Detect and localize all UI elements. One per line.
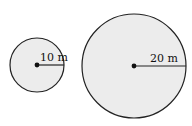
diagram-canvas: 10 m 20 m bbox=[0, 0, 192, 126]
large-circle-group: 20 m bbox=[82, 14, 186, 118]
small-center-dot bbox=[35, 63, 40, 68]
small-radius-label: 10 m bbox=[40, 51, 68, 64]
small-circle-group: 10 m bbox=[10, 38, 68, 92]
large-center-dot bbox=[132, 64, 137, 69]
large-radius-label: 20 m bbox=[150, 52, 178, 65]
